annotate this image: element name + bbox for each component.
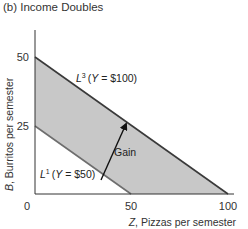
x-tick-0: 0 bbox=[24, 200, 30, 212]
x-tick-50: 50 bbox=[125, 200, 137, 212]
l3-label: L3(Y = $100) bbox=[76, 72, 137, 84]
x-tick-100: 100 bbox=[219, 200, 237, 212]
y-tick-25: 25 bbox=[17, 120, 29, 132]
x-axis-label: Z, Pizzas per semester bbox=[128, 216, 237, 228]
gain-label: Gain bbox=[114, 146, 136, 158]
y-tick-50: 50 bbox=[17, 51, 29, 63]
budget-constraint-chart: 50 25 0 50 100 Z, Pizzas per semester B,… bbox=[0, 0, 248, 229]
y-axis-label: B, Burritos per semester bbox=[3, 77, 15, 191]
l1-label: L1(Y = $50) bbox=[40, 168, 95, 180]
